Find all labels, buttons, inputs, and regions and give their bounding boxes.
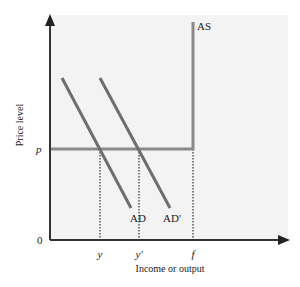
ad-prime-label: AD' (163, 212, 181, 224)
price-level-p-label: p (35, 143, 42, 155)
origin-label: 0 (37, 234, 43, 246)
ad-label: AD (130, 212, 146, 224)
y-axis-label: Price level (14, 104, 25, 147)
tick-y-prime-label: y' (134, 248, 143, 260)
x-axis-label: Income or output (136, 263, 205, 274)
as-label: AS (197, 20, 211, 32)
tick-f-label: f (191, 248, 196, 260)
as-ad-diagram: AS AD AD' p 0 y y' f Income or output Pr… (0, 0, 300, 287)
tick-y-label: y (97, 248, 103, 260)
